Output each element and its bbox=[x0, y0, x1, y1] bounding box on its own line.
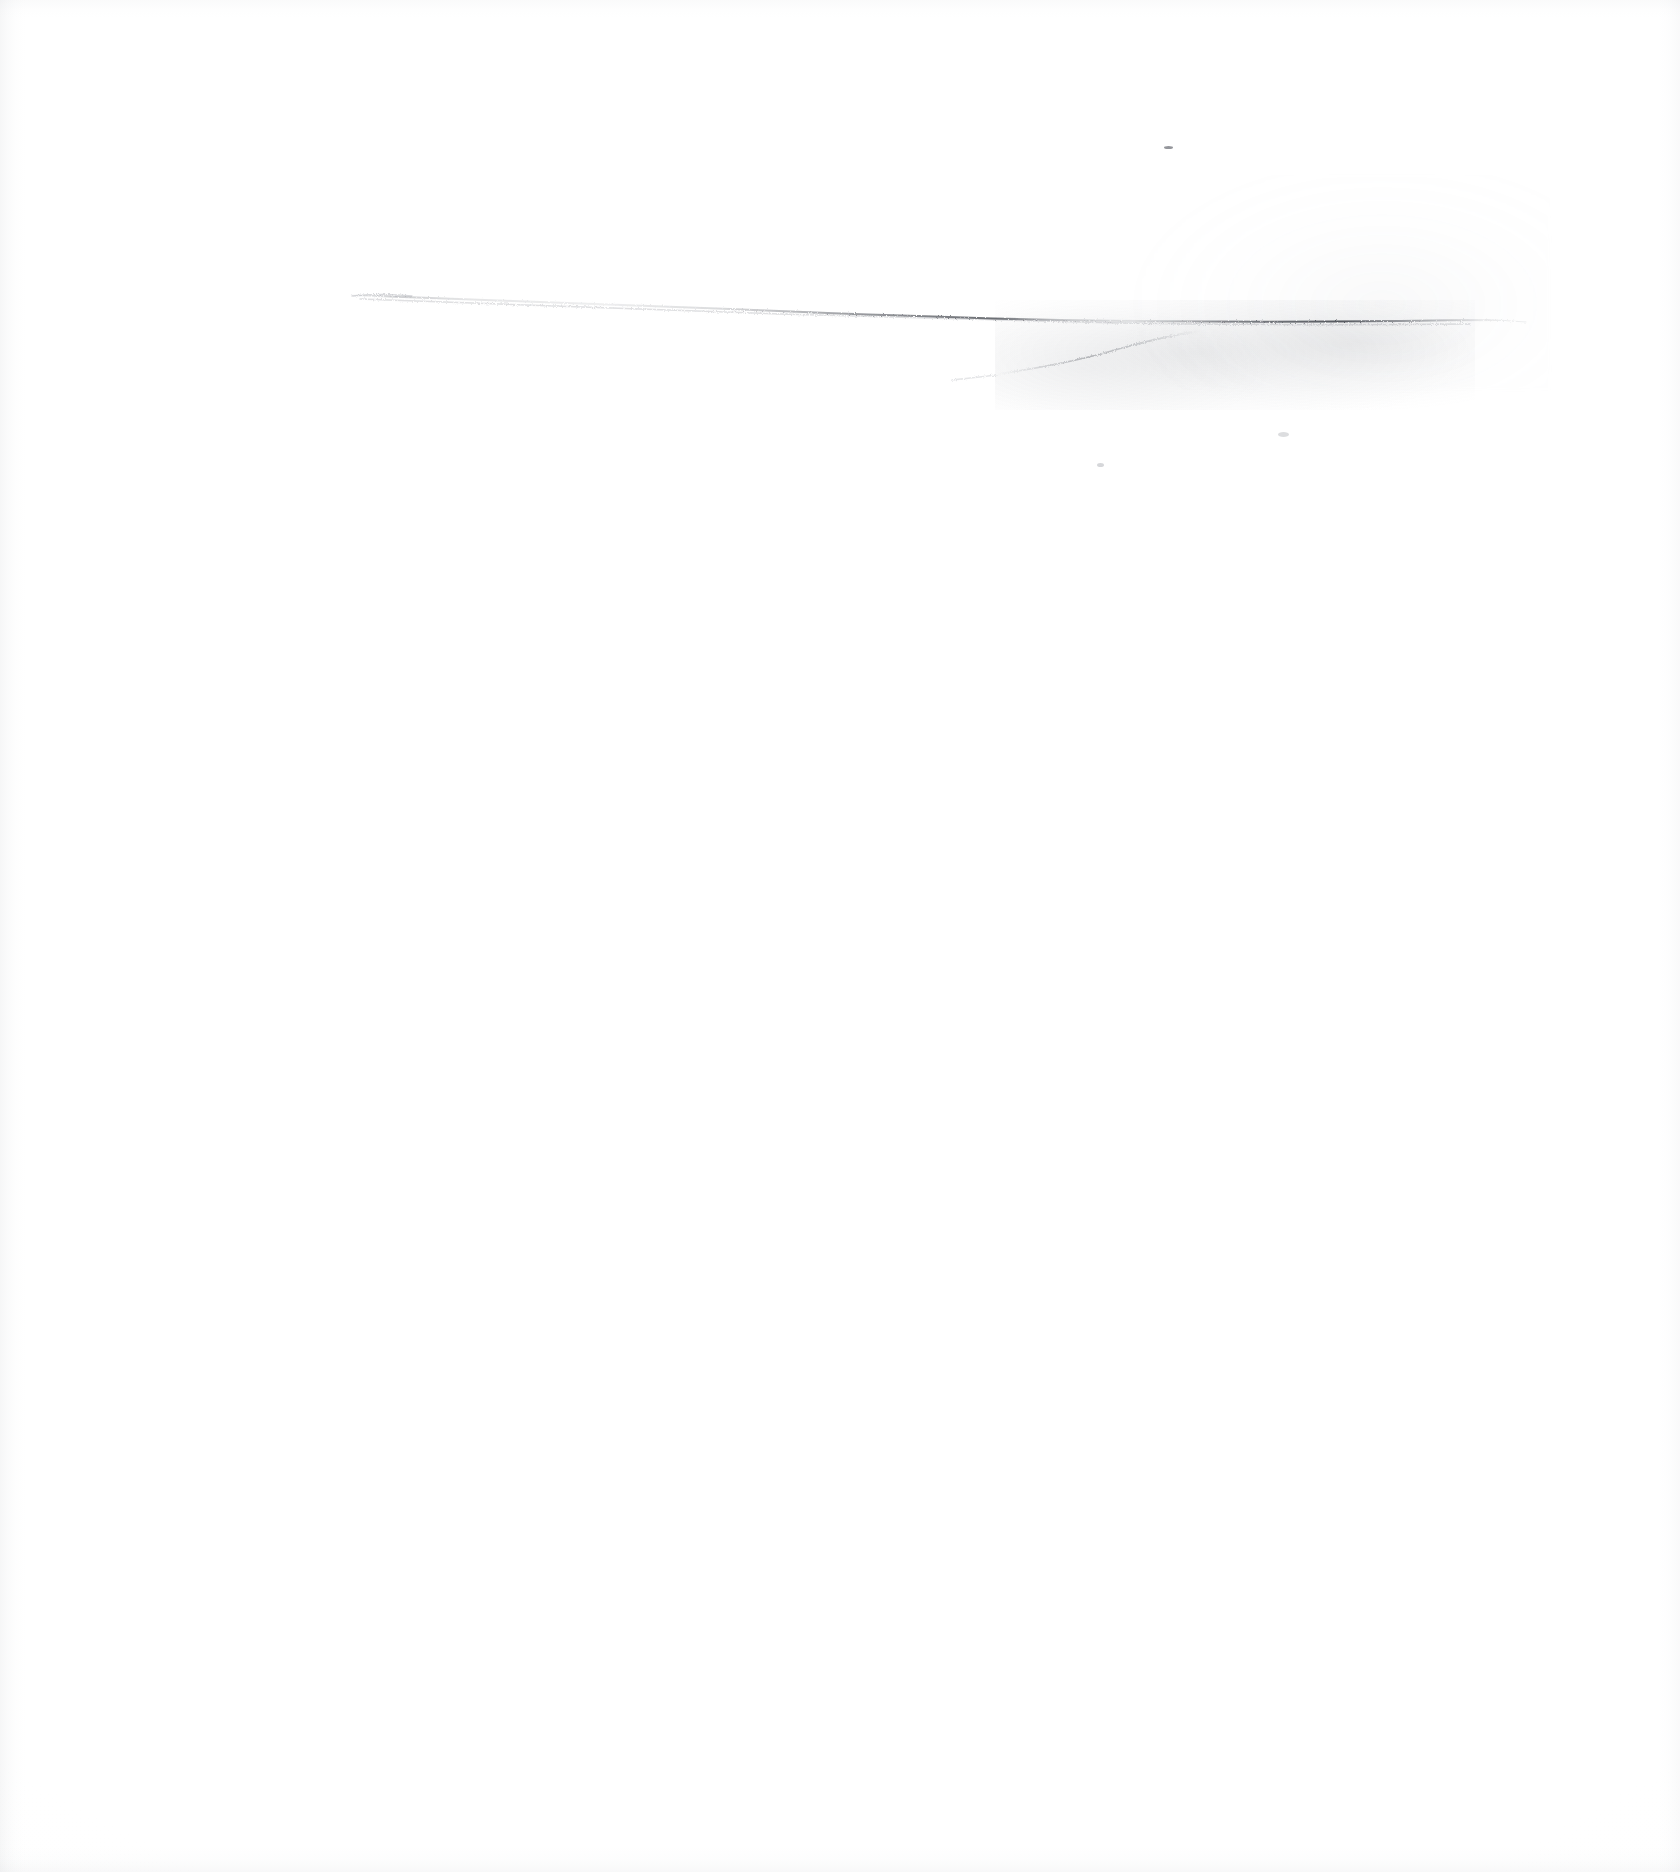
graphite-speck-upper bbox=[1164, 146, 1173, 149]
scan-edge-bottom bbox=[0, 1846, 1680, 1872]
graphite-speck-lower-right bbox=[1278, 432, 1289, 437]
graphite-speck-lower-left bbox=[1097, 463, 1104, 467]
scan-edge-right bbox=[1658, 0, 1680, 1872]
stroke-leading-wisp bbox=[352, 295, 412, 297]
scanned-page bbox=[0, 0, 1680, 1872]
graphite-smudge-cloud bbox=[995, 300, 1475, 410]
scan-edge-left bbox=[0, 0, 26, 1872]
scan-edge-top bbox=[0, 0, 1680, 18]
branch-leading-wisp bbox=[952, 375, 996, 380]
